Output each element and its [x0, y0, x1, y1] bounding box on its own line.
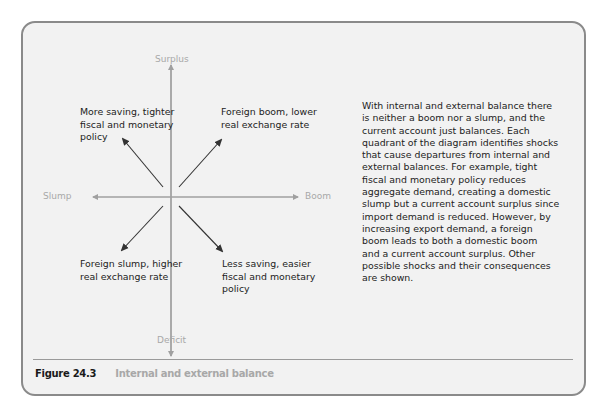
text-line: policy [222, 283, 315, 296]
text-line: and a current account surplus. Other [362, 248, 602, 260]
text-line: aggregate demand, creating a domestic [362, 186, 602, 198]
text-line: Less saving, easier [222, 258, 315, 271]
text-line: is neither a boom nor a slump, and the [362, 112, 602, 124]
text-line: With internal and external balance there [362, 100, 602, 112]
text-line: increasing export demand, a foreign [362, 223, 602, 235]
text-line: fiscal and monetary policy reduces [362, 174, 602, 186]
text-line: More saving, tighter [80, 106, 174, 119]
text-line: are shown. [362, 272, 602, 284]
text-line: import demand is reduced. However, by [362, 211, 602, 223]
arrow-top-right [179, 140, 221, 187]
arrow-top-left [123, 139, 163, 187]
arrow-bottom-right [179, 206, 222, 251]
text-line: real exchange rate [221, 119, 317, 132]
axis-label-deficit: Deficit [157, 335, 186, 345]
text-line: real exchange rate [80, 271, 182, 284]
text-line: policy [80, 131, 174, 144]
text-line: Foreign slump, higher [80, 258, 182, 271]
text-line: possible shocks and their consequences [362, 260, 602, 272]
quadrant-top-right-text: Foreign boom, lower real exchange rate [221, 106, 317, 131]
text-line: external balances. For example, tight [362, 161, 602, 173]
text-line: Foreign boom, lower [221, 106, 317, 119]
text-line: boom leads to both a domestic boom [362, 235, 602, 247]
axis-label-surplus: Surplus [155, 54, 189, 64]
text-line: fiscal and monetary [222, 271, 315, 284]
arrow-bottom-left [122, 206, 163, 250]
text-line: quadrant of the diagram identifies shock… [362, 137, 602, 149]
quadrant-top-left-text: More saving, tighter fiscal and monetary… [80, 106, 174, 144]
figure-number: Figure 24.3 [35, 368, 96, 379]
axis-label-slump: Slump [43, 191, 71, 201]
text-line: that cause departures from internal and [362, 149, 602, 161]
figure-title: Internal and external balance [115, 368, 273, 379]
text-line: current account just balances. Each [362, 125, 602, 137]
figure-caption: Figure 24.3 Internal and external balanc… [35, 368, 274, 379]
text-line: slump but a current account surplus sinc… [362, 198, 602, 210]
quadrant-bottom-left-text: Foreign slump, higher real exchange rate [80, 258, 182, 283]
axis-label-boom: Boom [305, 191, 331, 201]
quadrant-bottom-right-text: Less saving, easier fiscal and monetary … [222, 258, 315, 296]
text-line: fiscal and monetary [80, 119, 174, 132]
caption-divider [33, 359, 573, 360]
description-text: With internal and external balance there… [362, 100, 602, 284]
